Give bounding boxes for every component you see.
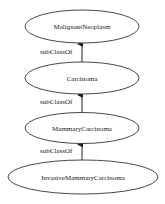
edge-label: subClassOf: [40, 147, 73, 155]
class-node: Carcinoma: [25, 62, 139, 94]
nodes-layer: MalignantNeoplasmCarcinomaMammaryCarcino…: [8, 10, 158, 194]
class-node: MalignantNeoplasm: [25, 10, 139, 43]
class-hierarchy-diagram: subClassOfsubClassOfsubClassOf Malignant…: [0, 0, 165, 204]
node-label: MalignantNeoplasm: [53, 23, 111, 31]
class-node: MammaryCarcinoma: [25, 113, 139, 144]
subclass-edge: subClassOf: [40, 95, 82, 113]
edge-label: subClassOf: [40, 98, 73, 106]
subclass-edge: subClassOf: [40, 44, 82, 62]
node-label: InvasiveMammaryCarcinoma: [41, 174, 125, 182]
subclass-edge: subClassOf: [40, 145, 82, 161]
node-label: Carcinoma: [67, 75, 99, 83]
class-node: InvasiveMammaryCarcinoma: [8, 160, 158, 194]
node-label: MammaryCarcinoma: [52, 125, 113, 133]
edge-label: subClassOf: [40, 48, 73, 56]
